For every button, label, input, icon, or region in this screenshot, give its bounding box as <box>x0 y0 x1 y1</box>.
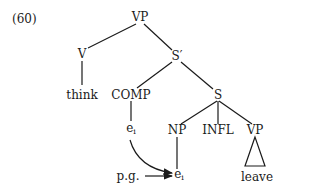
leaf-leave: leave <box>241 171 273 183</box>
np-trace: ei <box>174 168 184 184</box>
node-np: NP <box>168 124 187 136</box>
pg-label: p.g. <box>117 170 140 182</box>
leaf-think: think <box>66 89 97 101</box>
node-vp-root: VP <box>132 11 149 23</box>
comp-trace: ei <box>126 122 136 138</box>
node-sbar: S′ <box>172 50 183 62</box>
node-infl: INFL <box>202 124 234 136</box>
node-comp: COMP <box>111 89 150 101</box>
node-vp-lower: VP <box>247 124 264 136</box>
edge-vp-v <box>88 24 136 48</box>
node-s: S <box>214 89 222 101</box>
node-v: V <box>78 48 87 60</box>
